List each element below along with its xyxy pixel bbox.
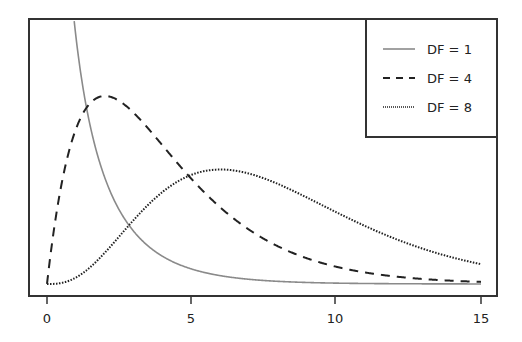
legend: DF = 1 DF = 4 DF = 8 xyxy=(366,19,497,137)
chi-square-chart: 0 5 10 15 DF = 1 DF = 4 DF = 8 xyxy=(0,0,522,342)
x-tick-label: 0 xyxy=(43,311,51,326)
x-tick-label: 10 xyxy=(327,311,344,326)
legend-label-df-1: DF = 1 xyxy=(427,42,472,57)
x-axis: 0 5 10 15 xyxy=(43,296,489,326)
legend-label-df-4: DF = 4 xyxy=(427,71,472,86)
series-df-8 xyxy=(47,170,481,284)
x-tick-label: 15 xyxy=(473,311,490,326)
x-tick-label: 5 xyxy=(187,311,195,326)
legend-label-df-8: DF = 8 xyxy=(427,100,472,115)
